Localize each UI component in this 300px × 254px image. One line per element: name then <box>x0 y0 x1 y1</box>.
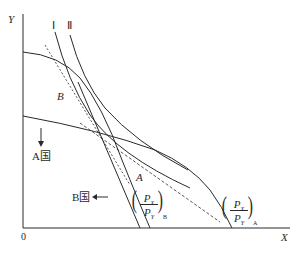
price-ratio-a-numerator: P <box>234 198 241 210</box>
price-ratio-a-denominator-sub: Y <box>241 220 244 226</box>
origin-label: 0 <box>21 232 26 242</box>
country-b-label: B国 <box>72 192 90 203</box>
diagram-canvas: Y X 0 Ⅰ Ⅱ B A A国 B国 ( PX PY ) B ( PX PY … <box>0 0 300 254</box>
indifference-curve-2 <box>70 35 188 170</box>
ppf-country-a <box>23 116 232 228</box>
indifference-curve-2-label: Ⅱ <box>67 20 72 31</box>
point-a-label: A <box>136 172 143 183</box>
price-line-b <box>45 45 130 185</box>
price-ratio-b-denominator-sub: Y <box>151 214 154 220</box>
price-ratio-b-numerator: P <box>144 192 151 204</box>
price-ratio-a-denominator: P <box>234 212 241 224</box>
indifference-curve-1 <box>55 32 190 188</box>
price-ratio-b-denominator: P <box>144 206 151 218</box>
price-ratio-b-subscript: B <box>163 214 167 220</box>
price-ratio-b: ( PX PY ) B <box>132 190 172 222</box>
x-axis-label: X <box>281 232 288 243</box>
indifference-curve-1-label: Ⅰ <box>52 20 55 31</box>
price-ratio-a-subscript: A <box>253 220 257 226</box>
arrowhead-down-icon <box>38 141 44 147</box>
arrowhead-left-icon <box>92 194 97 200</box>
point-b-label: B <box>57 91 64 102</box>
y-axis-label: Y <box>8 14 14 25</box>
price-ratio-a: ( PX PY ) A <box>222 196 262 228</box>
country-a-label: A国 <box>32 151 51 162</box>
